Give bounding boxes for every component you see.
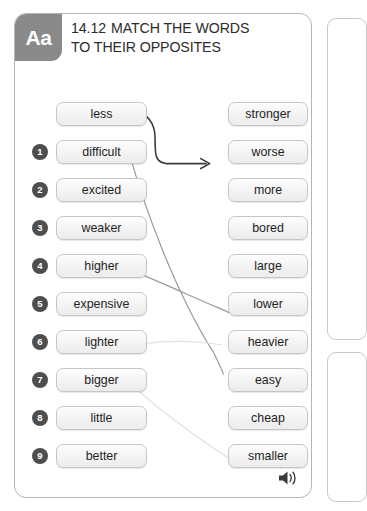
left-item-little[interactable]: 8 little — [32, 406, 157, 430]
word-box[interactable]: little — [56, 406, 147, 430]
word-box[interactable]: weaker — [56, 216, 147, 240]
word-box[interactable]: cheap — [228, 406, 308, 430]
right-item-stronger[interactable]: stronger — [228, 102, 308, 126]
exercise-header: Aa 14.12MATCH THE WORDS TO THEIR OPPOSIT… — [15, 14, 311, 76]
right-item-bored[interactable]: bored — [228, 216, 308, 240]
left-item-better[interactable]: 9 better — [32, 444, 157, 468]
right-item-worse[interactable]: worse — [228, 140, 308, 164]
word-box[interactable]: large — [228, 254, 308, 278]
title-line-1: MATCH THE WORDS — [111, 20, 249, 36]
right-item-more[interactable]: more — [228, 178, 308, 202]
speaker-wave-2 — [293, 472, 295, 484]
speaker-icon[interactable] — [278, 469, 300, 487]
page-title: 14.12MATCH THE WORDS TO THEIR OPPOSITES — [71, 19, 305, 56]
right-item-lower[interactable]: lower — [228, 292, 308, 316]
exercise-card: Aa 14.12MATCH THE WORDS TO THEIR OPPOSIT… — [14, 13, 312, 498]
left-item-less[interactable]: less — [32, 102, 157, 126]
item-number-badge: 3 — [32, 220, 48, 236]
word-box[interactable]: bigger — [56, 368, 147, 392]
speaker-body — [279, 472, 288, 485]
item-number-badge: 1 — [32, 144, 48, 160]
word-box[interactable]: more — [228, 178, 308, 202]
word-box[interactable]: higher — [56, 254, 147, 278]
word-box[interactable]: bored — [228, 216, 308, 240]
item-number-badge: 6 — [32, 334, 48, 350]
adjacent-card-bottom — [327, 352, 367, 502]
item-number-badge: 8 — [32, 410, 48, 426]
left-item-difficult[interactable]: 1 difficult — [32, 140, 157, 164]
adjacent-card-top — [327, 18, 367, 340]
right-item-large[interactable]: large — [228, 254, 308, 278]
aa-icon: Aa — [15, 14, 62, 61]
item-number-badge: 7 — [32, 372, 48, 388]
right-item-easy[interactable]: easy — [228, 368, 308, 392]
word-box[interactable]: expensive — [56, 292, 147, 316]
item-number-badge: 5 — [32, 296, 48, 312]
item-number-badge: 2 — [32, 182, 48, 198]
word-box[interactable]: excited — [56, 178, 147, 202]
word-box[interactable]: smaller — [228, 444, 308, 468]
left-item-weaker[interactable]: 3 weaker — [32, 216, 157, 240]
exercise-number: 14.12 — [71, 20, 106, 36]
right-item-smaller[interactable]: smaller — [228, 444, 308, 468]
word-box[interactable]: lower — [228, 292, 308, 316]
word-box[interactable]: lighter — [56, 330, 147, 354]
item-number-badge: 4 — [32, 258, 48, 274]
right-item-cheap[interactable]: cheap — [228, 406, 308, 430]
word-box[interactable]: better — [56, 444, 147, 468]
word-box[interactable]: difficult — [56, 140, 147, 164]
right-item-heavier[interactable]: heavier — [228, 330, 308, 354]
left-item-lighter[interactable]: 6 lighter — [32, 330, 157, 354]
word-box[interactable]: heavier — [228, 330, 308, 354]
arrowhead-more — [201, 159, 210, 169]
word-box[interactable]: stronger — [228, 102, 308, 126]
speaker-wave-1 — [290, 475, 291, 482]
left-item-bigger[interactable]: 7 bigger — [32, 368, 157, 392]
left-item-expensive[interactable]: 5 expensive — [32, 292, 157, 316]
word-box[interactable]: less — [56, 102, 147, 126]
word-box[interactable]: worse — [228, 140, 308, 164]
word-box[interactable]: easy — [228, 368, 308, 392]
left-item-higher[interactable]: 4 higher — [32, 254, 157, 278]
left-item-excited[interactable]: 2 excited — [32, 178, 157, 202]
title-line-2: TO THEIR OPPOSITES — [71, 39, 221, 55]
item-number-badge: 9 — [32, 448, 48, 464]
match-columns: less 1 difficult 2 excited 3 weaker 4 hi… — [15, 76, 311, 497]
